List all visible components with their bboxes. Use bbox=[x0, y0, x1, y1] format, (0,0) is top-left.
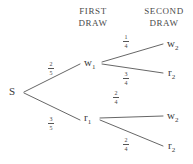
fraction-denominator: 4 bbox=[120, 145, 132, 152]
header-first-draw-line1: FIRST bbox=[79, 6, 107, 16]
probability-label-w1-to-w2: 1 4 bbox=[120, 34, 132, 49]
branch-r1-to-w2 bbox=[100, 116, 163, 118]
leaf-w2-lower-subscript: 2 bbox=[175, 116, 179, 124]
probability-label-w1-to-r2: 3 4 bbox=[120, 71, 132, 86]
column-header-first-draw: FIRST DRAW bbox=[68, 6, 118, 29]
fraction-denominator: 5 bbox=[45, 124, 57, 131]
column-header-second-draw: SECOND DRAW bbox=[137, 6, 191, 29]
fraction-denominator: 4 bbox=[120, 42, 132, 49]
fraction-numerator: 2 bbox=[120, 137, 132, 144]
probability-tree-diagram: FIRST DRAW SECOND DRAW S w1 r1 w2 r2 w2 … bbox=[0, 0, 193, 164]
node-root-s: S bbox=[9, 86, 15, 97]
fraction-numerator: 2 bbox=[45, 61, 57, 68]
fraction-numerator: 3 bbox=[120, 71, 132, 78]
fraction-denominator: 4 bbox=[110, 98, 122, 105]
node-w1-subscript: 1 bbox=[92, 63, 96, 71]
node-w1-base: w bbox=[84, 56, 92, 68]
probability-label-r1-to-r2: 2 4 bbox=[120, 137, 132, 152]
leaf-second-draw-r2-upper: r2 bbox=[168, 67, 175, 78]
branch-w1-to-w2 bbox=[102, 44, 163, 62]
fraction-numerator: 3 bbox=[45, 116, 57, 123]
node-first-draw-r1: r1 bbox=[84, 112, 91, 123]
header-first-draw-line2: DRAW bbox=[78, 18, 107, 28]
leaf-second-draw-w2-upper: w2 bbox=[167, 38, 178, 49]
header-second-draw-line1: SECOND bbox=[144, 6, 184, 16]
header-second-draw-line2: DRAW bbox=[149, 18, 178, 28]
branch-w1-to-r2 bbox=[102, 64, 163, 73]
leaf-second-draw-w2-lower: w2 bbox=[167, 110, 178, 121]
probability-label-r1-to-w2: 2 4 bbox=[110, 90, 122, 105]
node-r1-subscript: 1 bbox=[88, 118, 92, 126]
probability-label-s-to-r1: 3 5 bbox=[45, 116, 57, 131]
fraction-denominator: 5 bbox=[45, 69, 57, 76]
fraction-numerator: 2 bbox=[110, 90, 122, 97]
fraction-denominator: 4 bbox=[120, 79, 132, 86]
fraction-numerator: 1 bbox=[120, 34, 132, 41]
leaf-w2-lower-base: w bbox=[167, 109, 175, 121]
node-first-draw-w1: w1 bbox=[84, 57, 95, 68]
leaf-r2-upper-subscript: 2 bbox=[172, 73, 176, 81]
probability-label-s-to-w1: 2 5 bbox=[45, 61, 57, 76]
node-root-s-base: S bbox=[9, 85, 15, 97]
leaf-second-draw-r2-lower: r2 bbox=[168, 140, 175, 151]
leaf-w2-upper-subscript: 2 bbox=[175, 44, 179, 52]
leaf-r2-lower-subscript: 2 bbox=[172, 146, 176, 154]
leaf-w2-upper-base: w bbox=[167, 37, 175, 49]
